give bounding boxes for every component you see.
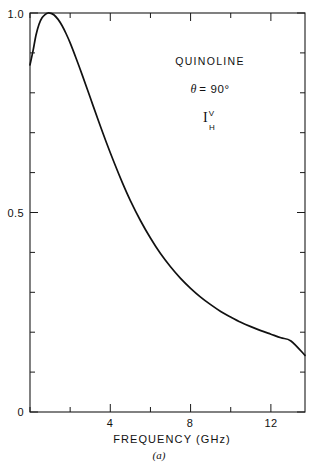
axis-ticks <box>30 13 305 412</box>
x-axis-title: FREQUENCY (GHz) <box>113 433 231 445</box>
theta-symbol: θ <box>190 82 196 96</box>
data-curve-series-0 <box>30 13 305 355</box>
y-tick-label-0: 0 <box>17 406 24 418</box>
x-tick-label-8: 8 <box>187 417 194 429</box>
y-tick-label-1.0: 1.0 <box>8 8 25 20</box>
chart-plot: 1.0 0.5 0 4 8 12 FREQUENCY (GHz) QUINOLI… <box>0 0 318 465</box>
annotation-intensity-symbol: IVH <box>203 109 215 132</box>
x-tick-label-12: 12 <box>264 417 277 429</box>
annotation-sample-name: QUINOLINE <box>175 55 244 67</box>
y-tick-label-0.5: 0.5 <box>8 207 25 219</box>
plot-frame <box>30 13 305 412</box>
figure-caption: (a) <box>153 449 166 462</box>
annotation-angle: θ= 90° <box>190 82 229 96</box>
intensity-superscript: V <box>209 109 215 118</box>
figure-container: 1.0 0.5 0 4 8 12 FREQUENCY (GHz) QUINOLI… <box>0 0 318 465</box>
angle-value: = 90° <box>199 83 229 95</box>
intensity-symbol-base: I <box>203 110 208 125</box>
x-tick-label-4: 4 <box>107 417 114 429</box>
intensity-subscript: H <box>209 123 215 132</box>
